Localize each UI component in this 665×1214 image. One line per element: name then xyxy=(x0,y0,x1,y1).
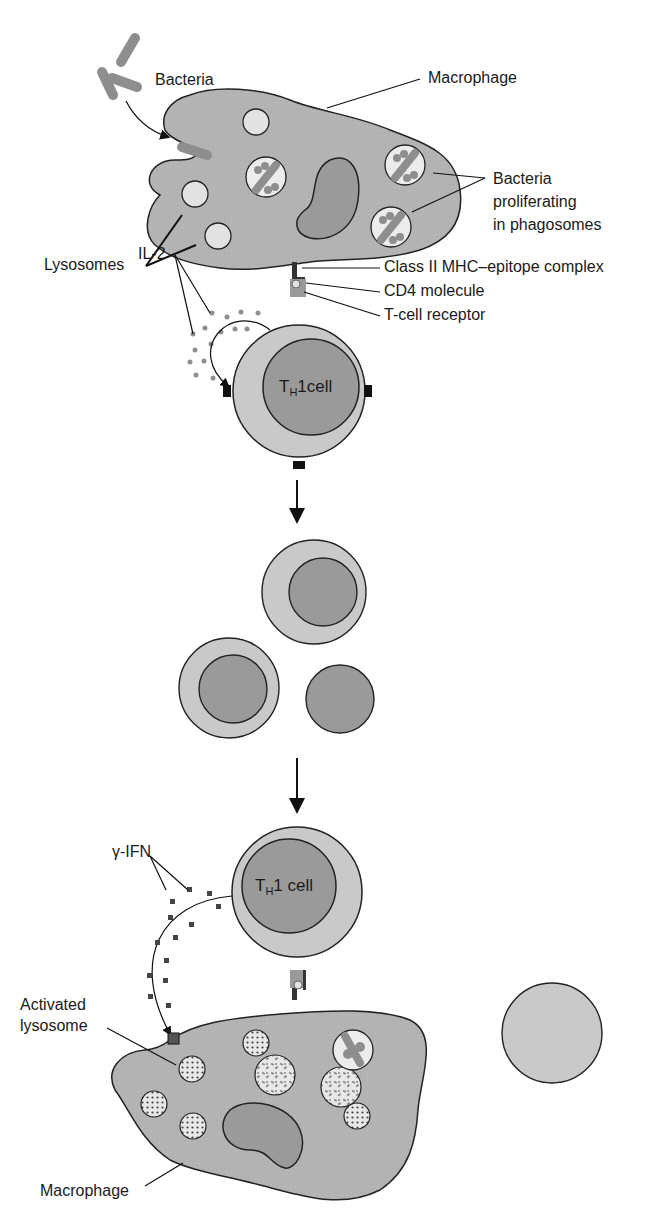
label-il2: IL-2 xyxy=(138,244,166,263)
label-cd4: CD4 molecule xyxy=(384,281,484,300)
free-bacteria xyxy=(102,38,137,95)
phagosome xyxy=(371,207,411,247)
lysosome xyxy=(243,109,269,135)
activated-lysosome xyxy=(180,1113,206,1139)
ifn-arrow xyxy=(152,896,232,1034)
macrophage-top xyxy=(147,89,460,269)
activated-lysosome xyxy=(141,1091,167,1117)
lysosome xyxy=(182,181,208,207)
label-bacteria-proliferating-1: Bacteria xyxy=(493,169,552,188)
label-bacteria-proliferating-3: in phagosomes xyxy=(493,215,602,234)
label-bacteria-proliferating-2: proliferating xyxy=(493,192,577,211)
label-activated-lysosome-2: lysosome xyxy=(20,1016,88,1035)
label-tcr: T-cell receptor xyxy=(384,305,485,324)
phagocytosis-arrow xyxy=(126,101,168,137)
label-th1-top: TH1cell xyxy=(279,377,332,398)
label-th1-bottom: TH1 cell xyxy=(255,876,313,897)
diagram-canvas: Bacteria Macrophage Bacteria proliferati… xyxy=(0,0,665,1214)
macrophage-activated xyxy=(112,1011,427,1200)
lysosome xyxy=(205,223,231,249)
mhc-tcr-complex-top xyxy=(290,262,306,297)
phagosome xyxy=(385,145,425,185)
label-activated-lysosome-1: Activated xyxy=(20,995,86,1014)
label-macrophage-bottom: Macrophage xyxy=(40,1181,129,1200)
diagram-svg xyxy=(0,0,665,1214)
label-macrophage-top: Macrophage xyxy=(428,68,517,87)
label-bacteria: Bacteria xyxy=(155,70,214,89)
th1-cell-bottom xyxy=(232,827,362,1000)
label-lysosomes: Lysosomes xyxy=(44,255,124,274)
ifn-molecules xyxy=(147,887,221,1008)
resting-cell xyxy=(502,983,602,1083)
label-gamma-ifn: γ-IFN xyxy=(112,842,151,861)
activated-lysosome xyxy=(179,1056,205,1082)
label-class-ii-mhc: Class II MHC–epitope complex xyxy=(384,257,604,276)
proliferating-cells xyxy=(179,540,374,738)
phagosome xyxy=(246,157,286,197)
